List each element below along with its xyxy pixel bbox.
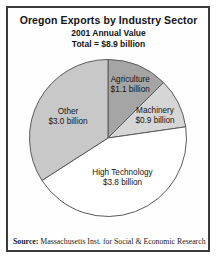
- slice-label-machinery: Machinery$0.9 billion: [135, 106, 175, 125]
- pie-chart: Agriculture$1.1 billionMachinery$0.9 bil…: [0, 0, 217, 259]
- source-line: Source: Massachusetts Inst. for Social &…: [13, 237, 207, 246]
- source-text: Massachusetts Inst. for Social & Economi…: [38, 237, 205, 246]
- source-label: Source:: [13, 237, 38, 246]
- slice-label-agriculture: Agriculture$1.1 billion: [111, 75, 151, 94]
